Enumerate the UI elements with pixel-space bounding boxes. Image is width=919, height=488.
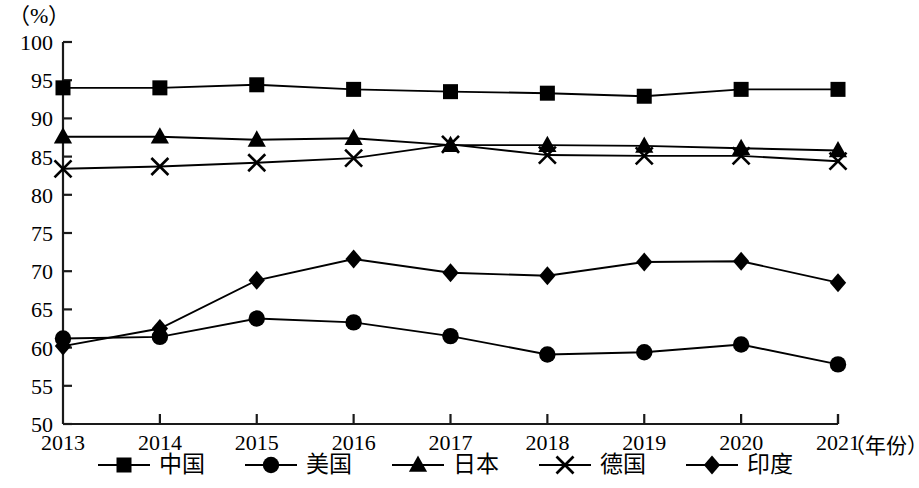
legend-item-印度[interactable]: 印度 — [684, 452, 793, 478]
diamond-marker — [249, 271, 265, 290]
triangle-marker — [54, 127, 72, 143]
triangle-marker — [732, 139, 750, 155]
square-marker — [152, 80, 167, 95]
legend-item-美国[interactable]: 美国 — [243, 452, 352, 478]
diamond-marker — [539, 266, 555, 285]
chart-legend: 中国美国日本德国印度 — [0, 452, 888, 478]
square-marker — [540, 86, 555, 101]
circle-marker — [830, 356, 846, 372]
series-circle — [55, 310, 846, 372]
legend-item-label: 美国 — [303, 452, 352, 478]
y-axis-tick-label: 55 — [31, 374, 53, 399]
diamond-marker — [733, 252, 749, 271]
diamond-marker — [684, 453, 740, 477]
square-marker — [56, 80, 71, 95]
diamond-marker — [830, 273, 846, 292]
triangle-marker — [151, 127, 169, 143]
legend-item-label: 中国 — [156, 452, 205, 478]
circle-marker — [442, 328, 458, 344]
legend-item-label: 印度 — [744, 452, 793, 478]
y-axis-tick-label: 75 — [31, 221, 53, 246]
diamond-marker — [345, 249, 361, 268]
axis-lines — [63, 42, 838, 424]
legend-item-中国[interactable]: 中国 — [96, 452, 205, 478]
circle-marker — [345, 314, 361, 330]
x-marker — [537, 453, 593, 477]
y-axis-tick-label: 85 — [31, 145, 53, 170]
y-axis-tick-label: 70 — [31, 259, 53, 284]
circle-marker — [636, 344, 652, 360]
circle-marker — [249, 310, 265, 326]
triangle-marker — [248, 130, 266, 146]
square-marker — [116, 458, 131, 473]
circle-marker — [243, 453, 299, 477]
square-marker — [637, 89, 652, 104]
series-triangle — [54, 127, 847, 157]
y-axis-tick-labels: 10095908580757065605550 — [20, 30, 53, 437]
triangle-marker — [390, 453, 446, 477]
triangle-marker — [345, 129, 363, 145]
y-axis-tick-label: 65 — [31, 297, 53, 322]
square-marker — [96, 453, 152, 477]
y-axis-tick-label: 60 — [31, 336, 53, 361]
series-square — [56, 77, 846, 103]
square-marker — [443, 84, 458, 99]
diamond-marker — [636, 253, 652, 272]
square-marker — [249, 77, 264, 92]
legend-item-日本[interactable]: 日本 — [390, 452, 499, 478]
circle-marker — [539, 346, 555, 362]
circle-marker — [733, 336, 749, 352]
square-marker — [734, 82, 749, 97]
legend-item-label: 德国 — [597, 452, 646, 478]
data-series-layer — [54, 77, 847, 372]
y-axis-tick-label: 80 — [31, 183, 53, 208]
triangle-marker — [408, 456, 426, 472]
y-axis-tick-label: 100 — [20, 30, 53, 55]
legend-item-德国[interactable]: 德国 — [537, 452, 646, 478]
circle-marker — [262, 457, 278, 473]
diamond-marker — [442, 263, 458, 282]
square-marker — [831, 82, 846, 97]
y-axis-tick-label: 95 — [31, 68, 53, 93]
legend-item-label: 日本 — [450, 452, 499, 478]
diamond-marker — [703, 456, 719, 475]
square-marker — [346, 82, 361, 97]
y-axis-tick-label: 90 — [31, 106, 53, 131]
